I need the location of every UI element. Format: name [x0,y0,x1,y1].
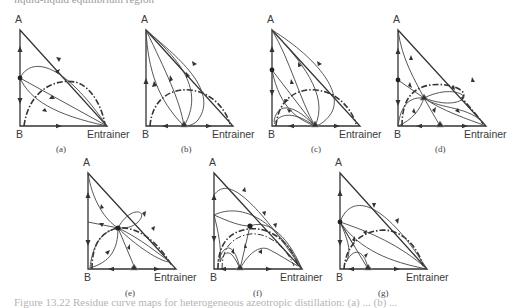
vertex-label-a: A [393,13,400,25]
panel-caption: (a) [56,144,66,154]
heteroazeotrope-triangle-icon [130,264,138,270]
ternary-azeotrope-node-icon [115,225,120,230]
vertex-label-a: A [335,156,342,168]
panel-a: A B Entrainer (a) [15,13,130,154]
vertex-label-b: B [268,128,275,140]
panel-caption: (b) [181,144,192,154]
panel-e: A B Entrainer (e) [83,156,197,298]
panel-caption: (d) [435,144,446,154]
vertex-label-entrainer: Entrainer [406,271,449,283]
vertex-label-a: A [15,13,22,25]
vertex-label-entrainer: Entrainer [464,128,507,140]
vertex-label-b: B [394,128,401,140]
vertex-label-entrainer: Entrainer [339,128,382,140]
vertex-label-entrainer: Entrainer [280,271,323,283]
vertex-label-a: A [83,156,90,168]
vertex-label-b: B [336,271,343,283]
panel-b: A B Entrainer (b) [141,13,255,154]
vertex-label-b: B [16,128,23,140]
ternary-azeotrope-node-icon [247,223,252,228]
vertex-label-b: B [142,128,149,140]
figure-caption: Figure 13.22 Residue curve maps for hete… [14,296,397,308]
vertex-label-entrainer: Entrainer [212,128,255,140]
panel-c: A B Entrainer (c) [267,13,382,154]
panel-f: A B Entrainer (f) [209,156,323,298]
vertex-label-b: B [84,271,91,283]
panel-caption: (c) [311,144,321,154]
vertex-label-a: A [209,156,216,168]
heteroazeotrope-triangle-icon [180,121,188,127]
azeotrope-node-icon [18,76,23,81]
panel-d: A B Entrainer (d) [393,13,507,154]
vertex-label-entrainer: Entrainer [154,271,197,283]
vertex-label-a: A [267,13,274,25]
panel-g: A B Entrainer (g) [335,156,449,298]
vertex-label-entrainer: Entrainer [87,128,130,140]
azeotrope-node-icon [396,78,401,83]
azeotrope-node-icon [338,220,343,225]
residue-curve-figure: A B Entrainer (a) A B Entrainer (b) [0,0,521,308]
vertex-label-a: A [141,13,148,25]
azeotrope-node-icon [270,68,275,73]
vertex-label-b: B [210,271,217,283]
